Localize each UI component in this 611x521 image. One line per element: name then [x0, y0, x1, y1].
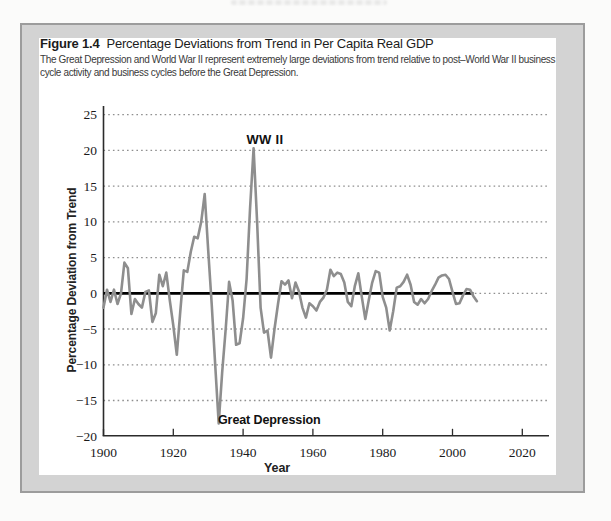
figure-title: Figure 1.4Percentage Deviations from Tre… [40, 36, 560, 51]
annotation-great-depression: Great Depression [218, 413, 321, 427]
svg-text:0: 0 [90, 286, 97, 301]
figure-title-text: Percentage Deviations from Trend in Per … [106, 36, 433, 51]
svg-text:1900: 1900 [90, 445, 117, 460]
svg-text:20: 20 [84, 143, 98, 158]
plot-area: 2520151050−5−10−15−201900192019401960198… [40, 95, 556, 475]
figure-number: Figure 1.4 [40, 36, 99, 51]
x-axis-title: Year [264, 461, 290, 475]
svg-text:1940: 1940 [230, 445, 257, 460]
svg-text:1920: 1920 [160, 445, 187, 460]
svg-text:−10: −10 [76, 357, 97, 372]
svg-text:2020: 2020 [509, 445, 536, 460]
svg-text:25: 25 [84, 107, 98, 122]
svg-text:−5: −5 [83, 322, 98, 337]
textbook-page: Figure 1.4Percentage Deviations from Tre… [0, 0, 611, 521]
y-axis-title: Percentage Deviation from Trend [65, 188, 79, 373]
svg-text:1960: 1960 [299, 445, 326, 460]
svg-text:1980: 1980 [369, 445, 396, 460]
svg-text:10: 10 [84, 214, 98, 229]
svg-text:15: 15 [84, 179, 98, 194]
svg-text:2000: 2000 [439, 445, 466, 460]
svg-text:−15: −15 [76, 393, 97, 408]
svg-text:5: 5 [90, 250, 97, 265]
figure-caption: The Great Depression and World War II re… [40, 53, 556, 79]
page-header-remnant [231, 0, 387, 5]
svg-text:−20: −20 [76, 429, 97, 444]
annotation-wwii: WW II [247, 132, 284, 147]
